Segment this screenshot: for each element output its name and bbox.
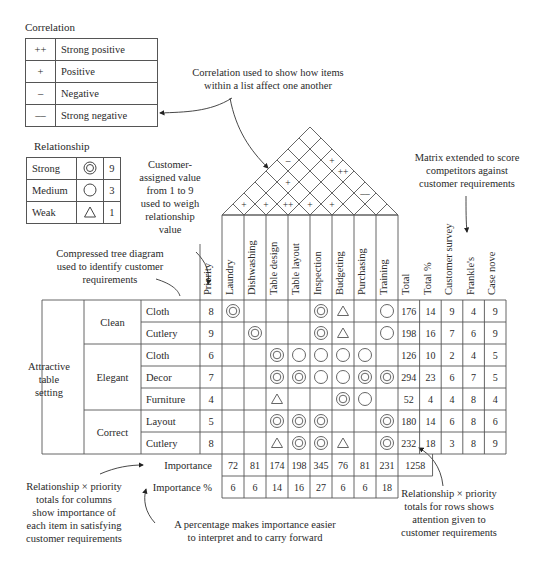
roof-correlation-symbol: +: [329, 156, 334, 166]
row-score: 18: [425, 438, 435, 449]
strong-relationship-icon: [381, 371, 394, 384]
priority-header: Priority: [202, 262, 213, 295]
importance-value: 345: [314, 460, 329, 471]
requirement-label: Furniture: [146, 394, 185, 405]
inner-ring: [317, 439, 325, 447]
row-score: 14: [425, 306, 435, 317]
medium-relationship-icon: [359, 393, 372, 406]
strong-relationship-icon: [315, 437, 328, 450]
priority-value: 5: [208, 416, 213, 427]
row-score: 9: [493, 328, 498, 339]
group-label: Elegant: [96, 372, 128, 383]
row-score: 4: [471, 350, 476, 361]
inner-ring: [295, 439, 303, 447]
arrow-to-competitors: [466, 196, 467, 232]
medium-relationship-icon: [315, 371, 328, 384]
priority-value: 9: [208, 328, 213, 339]
ring: [337, 371, 350, 384]
group-label: Clean: [100, 317, 125, 328]
outer-ring: [249, 327, 262, 340]
strong-relationship-icon: [381, 415, 394, 428]
roof-line: [376, 204, 387, 215]
arrow-to-roof: [230, 98, 268, 168]
importance-value: 81: [360, 460, 370, 471]
inner-ring: [339, 395, 347, 403]
roof-correlation-symbol: –: [285, 156, 291, 166]
priority-value: 4: [208, 394, 214, 405]
weak-relationship-icon: [338, 328, 349, 338]
inner-ring: [273, 373, 281, 381]
root-label: setting: [35, 387, 64, 398]
row-score: 4: [450, 394, 455, 405]
row-score: 4: [493, 394, 498, 405]
triangle: [272, 438, 283, 448]
inner-ring: [317, 329, 325, 337]
row-score: 8: [471, 394, 476, 405]
importance-pct-value: 6: [253, 482, 258, 493]
triangle: [338, 306, 349, 316]
ring: [293, 349, 306, 362]
medium-relationship-icon: [381, 327, 394, 340]
importance-pct-value: 6: [231, 482, 236, 493]
row-score: 7: [450, 328, 455, 339]
medium-relationship-icon: [337, 371, 350, 384]
ring: [337, 349, 350, 362]
item-column-header: Table layout: [290, 243, 301, 295]
strong-relationship-icon: [337, 393, 350, 406]
medium-relationship-icon: [337, 349, 350, 362]
row-score: 10: [425, 350, 435, 361]
outer-ring: [315, 305, 328, 318]
arrow-to-importance-pct: [145, 489, 155, 523]
outer-ring: [293, 437, 306, 450]
row-score: 9: [493, 438, 498, 449]
medium-relationship-icon: [293, 349, 306, 362]
item-column-header: Budgeting: [334, 251, 345, 295]
strong-relationship-icon: [359, 371, 372, 384]
importance-value: 174: [270, 460, 285, 471]
row-score: 180: [401, 416, 416, 427]
row-score: 7: [471, 372, 476, 383]
medium-relationship-icon: [381, 305, 394, 318]
outer-ring: [293, 415, 306, 428]
inner-ring: [273, 417, 281, 425]
roof-correlation-symbol: +: [263, 200, 268, 210]
strong-relationship-icon: [227, 305, 240, 318]
weak-relationship-icon: [272, 438, 283, 448]
importance-label: Importance: [164, 460, 212, 471]
row-score: 6: [471, 328, 476, 339]
importance-value: 198: [292, 460, 307, 471]
row-score: 126: [401, 350, 416, 361]
requirement-label: Decor: [146, 372, 172, 383]
inner-ring: [229, 307, 237, 315]
requirement-label: Cutlery: [146, 438, 178, 449]
inner-ring: [383, 439, 391, 447]
triangle: [338, 328, 349, 338]
root-label: Attractive: [28, 361, 70, 372]
row-score: 8: [471, 438, 476, 449]
extra-column-header: Case nove: [486, 251, 497, 295]
outer-ring: [271, 415, 284, 428]
roof-correlation-symbol: +: [241, 200, 246, 210]
row-score: 4: [471, 306, 476, 317]
outer-ring: [227, 305, 240, 318]
row-score: 14: [425, 416, 435, 427]
item-column-header: Training: [378, 258, 389, 295]
importance-pct-value: 6: [363, 482, 368, 493]
group-label: Correct: [97, 427, 129, 438]
row-score: 294: [401, 372, 416, 383]
strong-relationship-icon: [293, 371, 306, 384]
outer-ring: [315, 415, 328, 428]
inner-ring: [251, 329, 259, 337]
weak-relationship-icon: [338, 306, 349, 316]
row-score: 5: [493, 372, 498, 383]
row-score: 9: [450, 306, 455, 317]
importance-pct-value: 27: [316, 482, 326, 493]
roof-correlation-symbol: +: [307, 200, 312, 210]
requirement-label: Layout: [146, 416, 176, 427]
ring: [359, 349, 372, 362]
roof-correlation-symbol: ++: [338, 167, 349, 177]
roof-correlation-symbol: ++: [283, 200, 294, 210]
strong-relationship-icon: [271, 415, 284, 428]
outer-ring: [293, 371, 306, 384]
matrix-texts: +++++++––++–+PriorityLaundryDishwashingT…: [28, 156, 498, 494]
